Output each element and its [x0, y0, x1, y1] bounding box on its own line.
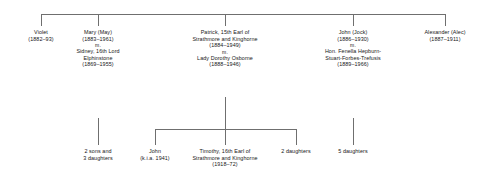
person-timothy-name-line2: Strathmore and Kinghorne [163, 155, 287, 162]
group-mary-children-line1: 2 sons and [68, 148, 128, 155]
family-tree-chart: Violet (1882–93) Mary (May) (1883–1961) … [0, 0, 491, 190]
stem-mary [98, 14, 99, 26]
descent-jock-to-daughters [353, 118, 354, 145]
person-mary-spouse-dates: (1869–1955) [53, 61, 143, 68]
person-patrick-spouse-dates: (1888–1946) [163, 61, 287, 68]
person-mary-name: Mary (May) [53, 29, 143, 36]
group-jock-daughters: 5 daughters [323, 148, 383, 155]
descent-to-timothy [225, 129, 226, 145]
person-john-jock-dates: (1886–1930) [303, 36, 403, 43]
person-john-jock-spouse-line1: Hon. Fenella Hepburn- [303, 48, 403, 55]
descent-to-patrick-daughters [296, 129, 297, 145]
stem-alexander [445, 14, 446, 26]
group-mary-children: 2 sons and 3 daughters [68, 148, 128, 161]
group-jock-daughters-label: 5 daughters [323, 148, 383, 155]
person-mary: Mary (May) (1883–1961) m. Sidney, 16th L… [53, 29, 143, 68]
group-patrick-daughters: 2 daughters [266, 148, 326, 155]
person-mary-dates: (1883–1961) [53, 36, 143, 43]
stem-violet [41, 14, 42, 26]
person-john-jock: John (Jock) (1886–1930) m. Hon. Fenella … [303, 29, 403, 68]
stem-john-jock [353, 14, 354, 26]
descent-to-john-kia [155, 129, 156, 145]
person-patrick-name-line1: Patrick, 15th Earl of [163, 29, 287, 36]
person-mary-spouse-line2: Elphinstone [53, 55, 143, 62]
person-john-jock-name: John (Jock) [303, 29, 403, 36]
person-john-jock-spouse-dates: (1889–1966) [303, 61, 403, 68]
person-alexander-name: Alexander (Alec) [404, 29, 486, 36]
descent-patrick-trunk [225, 97, 226, 129]
stem-patrick [225, 14, 226, 26]
person-patrick-dates: (1884–1949) [163, 42, 287, 49]
group-patrick-daughters-label: 2 daughters [266, 148, 326, 155]
person-timothy-dates: (1918–72) [163, 161, 287, 168]
person-patrick-spouse: Lady Dorothy Osborne [163, 55, 287, 62]
person-mary-spouse-line1: Sidney, 16th Lord [53, 48, 143, 55]
descent-mary-to-children [98, 118, 99, 145]
group-mary-children-line2: 3 daughters [68, 155, 128, 162]
person-alexander: Alexander (Alec) (1887–1911) [404, 29, 486, 42]
person-alexander-dates: (1887–1911) [404, 36, 486, 43]
sibling-bar-generation-1 [41, 14, 445, 15]
person-patrick: Patrick, 15th Earl of Strathmore and Kin… [163, 29, 287, 68]
person-patrick-name-line2: Strathmore and Kinghorne [163, 36, 287, 43]
person-john-jock-spouse-line2: Stuart-Forbes-Trefusis [303, 55, 403, 62]
